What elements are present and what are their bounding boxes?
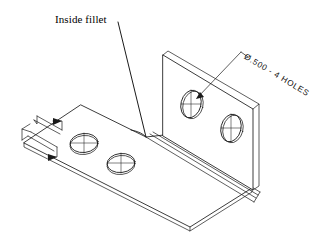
flange-right-thickness xyxy=(253,104,259,190)
inside-fillet-label: Inside fillet xyxy=(55,13,107,25)
inside-fillet-leader xyxy=(118,22,146,137)
bracket-isometric-svg: .ln { fill:none; stroke:#1a1a1a; stroke-… xyxy=(0,0,333,247)
drawing-canvas: .ln { fill:none; stroke:#1a1a1a; stroke-… xyxy=(0,0,333,247)
